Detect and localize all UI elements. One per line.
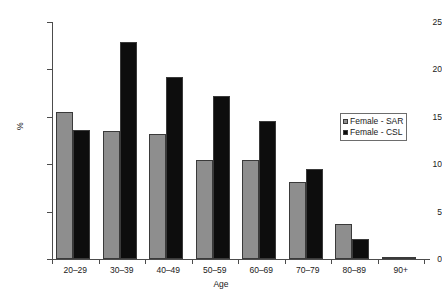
bar [382, 257, 399, 259]
bar-group [196, 22, 230, 259]
bar [242, 160, 259, 259]
x-axis-title: Age [0, 280, 442, 289]
bar [73, 130, 90, 259]
bar [352, 239, 369, 259]
bar [149, 134, 166, 259]
x-axis-tick [145, 259, 146, 264]
x-axis-tick [99, 259, 100, 264]
x-axis-tick [192, 259, 193, 264]
x-axis-tick [238, 259, 239, 264]
legend-entry: Female - CSL [343, 127, 403, 138]
bar-group [103, 22, 137, 259]
bar [259, 121, 276, 259]
bar [103, 131, 120, 259]
bar [120, 42, 137, 259]
bar [213, 96, 230, 259]
bar-group [56, 22, 90, 259]
x-axis-tick [285, 259, 286, 264]
bar [56, 112, 73, 259]
x-axis-tick [378, 259, 379, 264]
x-axis-tick-label: 90+ [371, 266, 431, 275]
legend-swatch-icon [343, 130, 348, 135]
x-axis-tick [52, 259, 53, 264]
bar-chart: 0510152025 % 20–2930–3940–4950–5960–6970… [0, 0, 442, 298]
x-axis-line [52, 259, 430, 260]
x-axis-tick [331, 259, 332, 264]
legend-label: Female - SAR [350, 117, 403, 126]
bar-group [242, 22, 276, 259]
legend-label: Female - CSL [350, 128, 402, 137]
bar-group [289, 22, 323, 259]
bar [166, 77, 183, 259]
bar [306, 169, 323, 259]
chart-legend: Female - SARFemale - CSL [340, 113, 407, 141]
bar [335, 224, 352, 259]
y-axis-title: % [16, 122, 25, 130]
legend-entry: Female - SAR [343, 116, 403, 127]
bar-group [149, 22, 183, 259]
bar [196, 160, 213, 259]
bar [399, 257, 416, 259]
bar [289, 182, 306, 259]
legend-swatch-icon [343, 119, 348, 124]
x-axis-tick [424, 259, 425, 264]
